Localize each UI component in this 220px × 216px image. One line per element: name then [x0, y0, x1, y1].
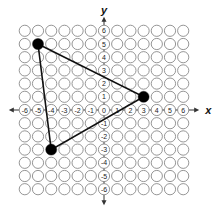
grid-circle [125, 38, 136, 49]
grid-circle [178, 65, 189, 76]
grid-circle [178, 170, 189, 181]
grid-circle [164, 25, 175, 36]
grid-circle [32, 131, 43, 142]
grid-circle [125, 184, 136, 195]
grid-circle [112, 118, 123, 129]
grid-circle [125, 131, 136, 142]
grid-circle [125, 118, 136, 129]
grid-circle [85, 91, 96, 102]
grid-circle [112, 65, 123, 76]
tick-label: -3 [101, 146, 107, 153]
grid-circle [72, 91, 83, 102]
grid-circle [138, 118, 149, 129]
grid-circle [19, 131, 30, 142]
grid-circle [59, 118, 70, 129]
tick-label: -2 [101, 133, 107, 140]
grid-circle [178, 184, 189, 195]
grid-circle [151, 144, 162, 155]
grid-circle [164, 184, 175, 195]
tick-label: -6 [101, 186, 107, 193]
y-axis-down-arrow-icon [102, 200, 107, 205]
coordinate-grid-diagram: xy654321-6-5-4-3-2-10123456-1-2-3-4-5-6 [0, 0, 220, 216]
grid-circle [138, 25, 149, 36]
grid-circle [85, 25, 96, 36]
grid-circle [164, 78, 175, 89]
grid-circle [112, 131, 123, 142]
tick-label: 5 [102, 41, 106, 48]
grid-circle [72, 25, 83, 36]
tick-label: 4 [155, 107, 159, 114]
grid-circle [85, 144, 96, 155]
grid-circle [19, 184, 30, 195]
grid-circle [112, 38, 123, 49]
grid-circle [178, 144, 189, 155]
grid-circle [19, 170, 30, 181]
tick-label: 6 [181, 107, 185, 114]
grid-circle [59, 65, 70, 76]
grid-circle [178, 38, 189, 49]
grid-circle [59, 25, 70, 36]
grid-circle [19, 78, 30, 89]
grid-circle [138, 170, 149, 181]
grid-circle [72, 78, 83, 89]
grid-circle [85, 38, 96, 49]
grid-circle [32, 184, 43, 195]
grid-circle [59, 38, 70, 49]
grid-circle [85, 184, 96, 195]
grid-circle [164, 52, 175, 63]
grid-circle [19, 25, 30, 36]
grid-circle [138, 131, 149, 142]
grid-circle [72, 184, 83, 195]
grid-circle [59, 170, 70, 181]
grid-circle [164, 144, 175, 155]
grid-circle [125, 65, 136, 76]
grid-circle [59, 91, 70, 102]
grid-circle [112, 25, 123, 36]
tick-label: -4 [101, 159, 107, 166]
grid-circle [151, 91, 162, 102]
grid-circle [151, 38, 162, 49]
x-axis-left-arrow-icon [9, 108, 14, 113]
grid-circle [164, 131, 175, 142]
grid-circle [59, 157, 70, 168]
x-axis-right-arrow-icon [194, 108, 199, 113]
tick-label: 1 [102, 93, 106, 100]
grid-circle [112, 52, 123, 63]
grid-circle [178, 52, 189, 63]
grid-circle [72, 38, 83, 49]
grid-circle [151, 65, 162, 76]
grid-circle [151, 131, 162, 142]
tick-label: 2 [128, 107, 132, 114]
grid-circle [164, 65, 175, 76]
grid-circle [164, 157, 175, 168]
grid-circle [138, 65, 149, 76]
grid-circle [85, 157, 96, 168]
tick-label: -2 [74, 107, 80, 114]
grid-circle [164, 38, 175, 49]
grid-circle [85, 78, 96, 89]
tick-label: 2 [102, 80, 106, 87]
grid-circle [178, 131, 189, 142]
grid-circle [151, 184, 162, 195]
triangle-vertex-dot [138, 91, 149, 102]
tick-label: 5 [168, 107, 172, 114]
grid-circle [46, 157, 57, 168]
tick-label: -3 [61, 107, 67, 114]
tick-label: 3 [142, 107, 146, 114]
x-axis-label: x [204, 104, 212, 116]
grid-circle [138, 78, 149, 89]
grid-circle [112, 184, 123, 195]
tick-label: -6 [22, 107, 28, 114]
grid-circle [32, 118, 43, 129]
tick-label: -4 [48, 107, 54, 114]
grid-circle [125, 157, 136, 168]
grid-circle [151, 78, 162, 89]
grid-circle [46, 78, 57, 89]
grid-circle [125, 52, 136, 63]
grid-circle [46, 184, 57, 195]
grid-circle [19, 52, 30, 63]
tick-label: 0 [102, 107, 106, 114]
grid-circle [178, 91, 189, 102]
grid-circle [72, 118, 83, 129]
y-axis-up-arrow-icon [102, 17, 107, 22]
